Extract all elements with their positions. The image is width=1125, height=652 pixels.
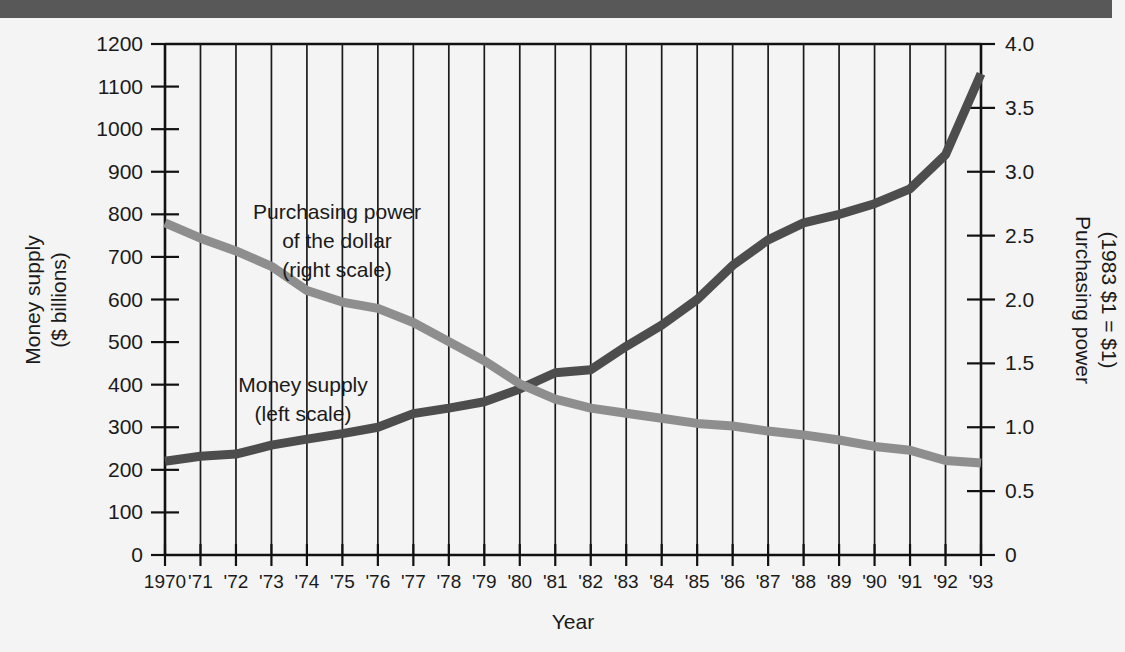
x-tick-label-1970: 1970 <box>144 571 186 592</box>
left-axis-title-line-1: Money supply <box>21 235 44 365</box>
x-axis-title: Year <box>552 610 594 633</box>
left-tick-label-500: 500 <box>108 330 143 353</box>
x-tick-label-91: '91 <box>898 571 923 592</box>
right-tick-label-0: 0 <box>1005 543 1017 566</box>
right-tick-label-2.0: 2.0 <box>1005 288 1034 311</box>
plot-frame <box>165 44 981 555</box>
money-supply-annotation-line-2: (left scale) <box>255 402 352 425</box>
left-tick-label-100: 100 <box>108 500 143 523</box>
top-band <box>0 0 1112 18</box>
left-tick-label-1100: 1100 <box>98 75 143 98</box>
left-tick-label-200: 200 <box>108 458 143 481</box>
x-tick-label-75: '75 <box>330 571 355 592</box>
chart-figure: 0100200300400500600700800900100011001200… <box>0 18 1125 652</box>
x-tick-label-93: '93 <box>969 571 994 592</box>
x-tick-label-79: '79 <box>472 571 497 592</box>
x-axis-ticks: 1970'71'72'73'74'75'76'77'78'79'80'81'82… <box>144 544 994 592</box>
purchasing-power-annotation-line-2: of the dollar <box>282 229 392 252</box>
x-tick-label-87: '87 <box>756 571 781 592</box>
left-tick-label-0: 0 <box>131 543 143 566</box>
x-tick-label-77: '77 <box>401 571 426 592</box>
x-tick-label-86: '86 <box>720 571 745 592</box>
right-tick-label-2.5: 2.5 <box>1005 224 1034 247</box>
purchasing-power-annotation-line-3: (right scale) <box>282 258 392 281</box>
x-tick-label-88: '88 <box>791 571 816 592</box>
right-tick-label-4.0: 4.0 <box>1005 32 1034 55</box>
x-tick-label-71: '71 <box>188 571 213 592</box>
right-tick-label-0.5: 0.5 <box>1005 479 1034 502</box>
x-tick-label-72: '72 <box>224 571 249 592</box>
x-tick-label-81: '81 <box>543 571 568 592</box>
left-tick-label-300: 300 <box>108 415 143 438</box>
left-tick-label-1000: 1000 <box>96 117 143 140</box>
gridlines <box>200 44 945 555</box>
right-tick-label-1.0: 1.0 <box>1005 415 1034 438</box>
left-tick-label-700: 700 <box>108 245 143 268</box>
right-tick-label-3.0: 3.0 <box>1005 160 1034 183</box>
purchasing-power-annotation-line-1: Purchasing power <box>253 200 421 223</box>
x-tick-label-80: '80 <box>507 571 532 592</box>
money-supply-annotation-line-1: Money supply <box>238 373 368 396</box>
right-axis-ticks: 00.51.01.52.02.53.03.54.0 <box>967 32 1034 566</box>
right-axis-title: Purchasing power (1983 $1 = $1) <box>1072 216 1121 384</box>
x-tick-label-73: '73 <box>259 571 284 592</box>
left-axis-title-line-2: ($ billions) <box>47 252 70 348</box>
left-tick-label-400: 400 <box>108 373 143 396</box>
x-tick-label-74: '74 <box>295 571 320 592</box>
left-tick-label-1200: 1200 <box>96 32 143 55</box>
left-tick-label-600: 600 <box>108 288 143 311</box>
right-tick-label-1.5: 1.5 <box>1005 351 1034 374</box>
money-supply-annotation: Money supply (left scale) <box>238 373 368 425</box>
x-tick-label-90: '90 <box>862 571 887 592</box>
x-tick-label-84: '84 <box>649 571 674 592</box>
x-tick-label-82: '82 <box>578 571 603 592</box>
right-axis-title-line-1: Purchasing power <box>1072 216 1095 384</box>
x-tick-label-78: '78 <box>436 571 461 592</box>
chart-page: 0100200300400500600700800900100011001200… <box>0 0 1125 652</box>
x-tick-label-89: '89 <box>827 571 852 592</box>
left-axis-title: Money supply ($ billions) <box>21 235 70 365</box>
right-tick-label-3.5: 3.5 <box>1005 96 1034 119</box>
x-tick-label-92: '92 <box>933 571 958 592</box>
left-tick-label-800: 800 <box>108 202 143 225</box>
left-axis-ticks: 0100200300400500600700800900100011001200 <box>96 32 179 566</box>
x-tick-label-76: '76 <box>365 571 390 592</box>
x-tick-label-83: '83 <box>614 571 639 592</box>
chart-canvas: 0100200300400500600700800900100011001200… <box>0 18 1125 652</box>
x-tick-label-85: '85 <box>685 571 710 592</box>
left-tick-label-900: 900 <box>108 160 143 183</box>
right-axis-title-line-2: (1983 $1 = $1) <box>1098 231 1121 368</box>
